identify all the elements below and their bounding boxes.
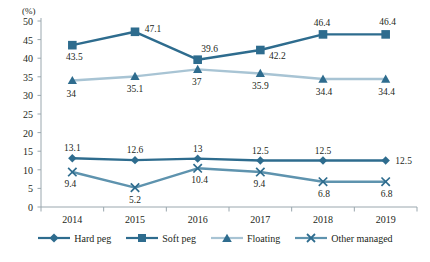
legend-item-hard-peg[interactable]: Hard peg [37,232,111,244]
data-label: 34 [67,89,77,99]
data-label: 12.6 [127,145,144,155]
legend-item-soft-peg[interactable]: Soft peg [125,232,196,244]
chart-legend: Hard peg Soft peg Floating Other managed [0,232,430,244]
data-label: 34.4 [316,87,333,97]
series-floating [68,65,391,84]
data-label: 46.4 [314,18,331,28]
data-label: 9.4 [64,179,76,189]
series-other-managed [68,164,390,192]
data-label: 35.9 [252,81,269,91]
data-label: 47.1 [145,24,162,34]
data-label: 6.8 [381,189,393,199]
data-label: 46.4 [379,17,396,27]
data-label: 12.5 [315,146,332,156]
data-label: 39.6 [201,44,218,54]
legend-item-floating[interactable]: Floating [210,232,280,244]
data-label: 10.4 [191,175,208,185]
data-label: 13 [193,144,203,154]
legend-marker-diamond-icon [37,232,71,244]
legend-item-other-managed[interactable]: Other managed [294,232,392,244]
series-layer [68,27,391,191]
data-label: 37 [192,77,202,87]
data-label: 34.4 [378,87,395,97]
series-hard-peg [68,154,390,165]
legend-label-hard-peg: Hard peg [74,233,111,244]
legend-marker-triangle-icon [210,232,244,244]
data-label: 12.5 [252,146,269,156]
legend-label-other-managed: Other managed [331,233,392,244]
legend-marker-cross-icon [294,232,328,244]
data-label: 9.4 [253,179,265,189]
legend-marker-square-icon [125,232,159,244]
data-label: 42.2 [269,51,286,61]
series-soft-peg [68,27,390,64]
data-label: 43.5 [66,52,83,62]
legend-label-floating: Floating [247,233,280,244]
plot-canvas [0,0,430,262]
data-label: 35.1 [127,84,144,94]
data-label: 13.1 [64,143,81,153]
exchange-rate-regime-line-chart: (%) 05101520253035404550 201420152016201… [0,0,430,262]
data-label: 6.8 [318,189,330,199]
data-label: 12.5 [395,156,412,166]
data-label: 5.2 [129,195,141,205]
legend-label-soft-peg: Soft peg [162,233,196,244]
